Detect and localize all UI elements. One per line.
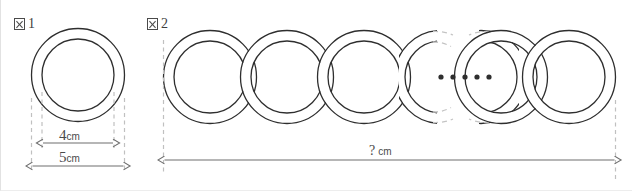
inner-diameter-value: 4 — [59, 127, 67, 143]
figure-1-label: 1 — [14, 17, 36, 31]
diagram-svg — [1, 0, 632, 191]
figure-1-number: 1 — [28, 16, 36, 31]
figure-2-total-length-label: ?cm — [369, 142, 392, 158]
figure2-ellipsis-dots — [438, 74, 491, 79]
total-length-unit: cm — [378, 146, 391, 157]
outer-diameter-unit: cm — [67, 153, 80, 164]
tofu-box-icon — [147, 18, 158, 30]
figure-1-outer-diameter-label: 5cm — [59, 149, 80, 165]
total-length-value: ? — [369, 143, 375, 158]
inner-diameter-unit: cm — [67, 131, 80, 142]
tofu-box-icon — [14, 18, 25, 30]
figure-canvas: 1 2 4cm 5cm ?cm — [0, 0, 632, 191]
outer-diameter-value: 5 — [59, 149, 67, 165]
figure1-ring — [32, 29, 125, 122]
figure-2-number: 2 — [161, 16, 169, 31]
figure-2-label: 2 — [147, 17, 169, 31]
figure-1-inner-diameter-label: 4cm — [59, 127, 80, 143]
